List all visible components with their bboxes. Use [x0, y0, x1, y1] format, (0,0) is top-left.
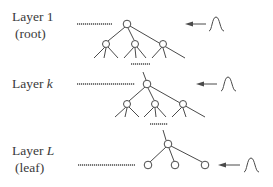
layer-L-leaf-node [171, 161, 179, 169]
layer-1-child-node [160, 41, 167, 48]
gaussian-bell-icon [244, 158, 259, 172]
layer-k-tree [77, 72, 236, 124]
layer-k-child-node [180, 101, 187, 108]
gaussian-bell-icon [209, 17, 224, 31]
layer-L-tree [78, 130, 259, 172]
layer-1-tree [77, 17, 224, 64]
layer-1-child-node [103, 41, 110, 48]
layer-k-child-node [152, 101, 159, 108]
layer-1-child-node [132, 41, 139, 48]
layer-L-parent-node [164, 140, 172, 148]
hierarchy-diagram [0, 0, 273, 187]
layer-k-root-node [143, 80, 151, 88]
layer-k-child-node [124, 101, 131, 108]
gaussian-bell-icon [221, 77, 236, 91]
arrowhead-icon [218, 163, 226, 168]
arrowhead-icon [185, 22, 193, 27]
layer-1-root-node [123, 20, 131, 28]
layer-L-leaf-node [201, 161, 209, 169]
layer-L-leaf-node [144, 161, 152, 169]
arrowhead-icon [196, 82, 204, 87]
